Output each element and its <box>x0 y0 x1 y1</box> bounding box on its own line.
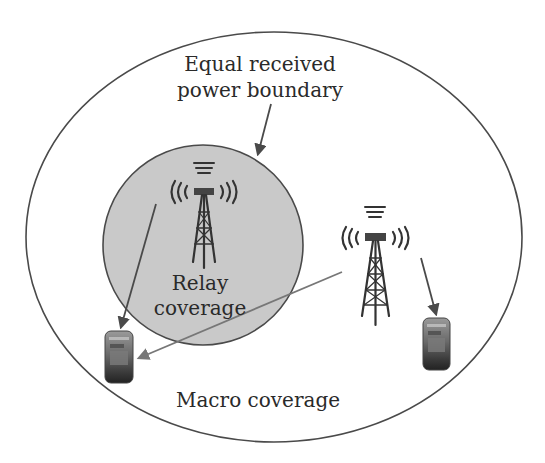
macro-to-macro-ue-link <box>421 258 436 314</box>
boundary-label-line1: Equal received <box>184 52 336 76</box>
boundary-pointer-arrow <box>258 104 271 154</box>
relay-ue-phone-icon <box>105 331 133 383</box>
macro-ue-phone-icon <box>423 318 450 370</box>
relay-coverage-diagram: Equal received power boundary Relay cove… <box>0 0 545 463</box>
relay-coverage-label-line2: coverage <box>154 296 247 320</box>
macro-tower-icon <box>343 207 409 325</box>
boundary-label-line2: power boundary <box>177 78 344 102</box>
macro-coverage-label: Macro coverage <box>176 388 340 412</box>
relay-coverage-label-line1: Relay <box>172 271 229 295</box>
